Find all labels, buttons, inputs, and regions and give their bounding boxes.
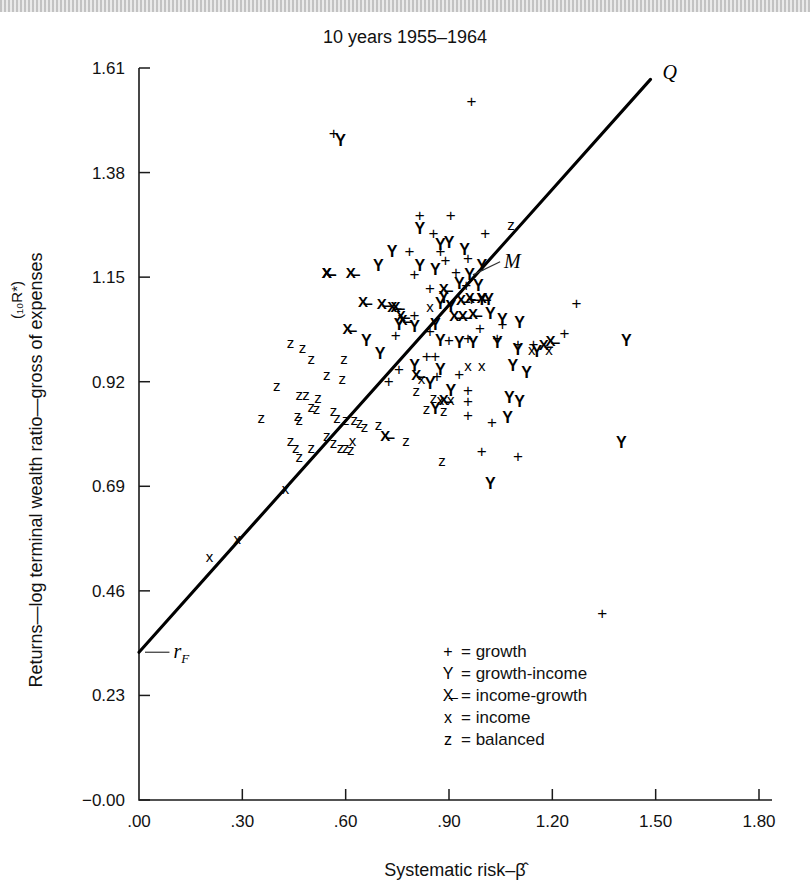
data-point-growth: +: [441, 251, 451, 270]
data-point-balanced: z: [333, 409, 341, 426]
x-tick-label: .60: [334, 812, 358, 831]
data-point-balanced: z: [440, 402, 448, 419]
data-point-balanced: z: [338, 370, 346, 387]
x-tick-label: 1.20: [536, 812, 569, 831]
legend: += growthY= growth-incomeX̶= income-grow…: [443, 642, 587, 749]
data-point-growth-income: Y: [409, 318, 420, 335]
data-point-growth: +: [394, 360, 404, 379]
legend-label-balanced: = balanced: [461, 730, 545, 749]
data-point-growth-income: Y: [387, 243, 398, 260]
data-point-growth-income: Y: [521, 364, 532, 381]
axis-lines: [139, 68, 772, 800]
data-point-growth-income: Y: [476, 257, 487, 274]
data-point-income-growth: X̶: [439, 280, 454, 297]
y-tick-label: 1.38: [92, 164, 125, 183]
data-point-growth: +: [559, 324, 569, 343]
data-point-balanced: z: [423, 400, 431, 417]
legend-label-income: = income: [461, 708, 530, 727]
y-axis-title-group: Returns—log terminal wealth ratio—gross …: [8, 252, 46, 687]
data-point-growth-income: Y: [430, 316, 441, 333]
data-point-balanced: z: [273, 377, 281, 394]
data-point-balanced: z: [375, 416, 383, 433]
data-point-income-growth: X̶: [380, 427, 395, 444]
data-point-balanced: z: [402, 432, 410, 449]
data-point-income: x: [426, 298, 434, 315]
data-point-growth-income: Y: [514, 314, 525, 331]
data-point-income-growth: X̶: [322, 264, 337, 281]
data-point-growth: +: [404, 242, 414, 261]
data-point-income-growth: X̶: [342, 320, 357, 337]
y-tick-label: 0.92: [92, 373, 125, 392]
data-point-income: x: [464, 357, 472, 374]
data-point-growth-income: Y: [616, 434, 627, 451]
plot-axes: −0.000.230.460.690.921.151.381.61 .00.30…: [82, 59, 776, 831]
q-label: Q: [663, 61, 678, 83]
data-point-balanced: z: [340, 350, 348, 367]
rf-label: rF: [173, 640, 190, 666]
data-point-balanced: z: [307, 350, 315, 367]
data-point-income: x: [282, 480, 290, 497]
data-point-growth-income: Y: [485, 475, 496, 492]
data-point-growth-income: Y: [435, 332, 446, 349]
data-point-balanced: z: [361, 418, 369, 435]
data-point-growth: +: [466, 92, 476, 111]
x-axis-ticks: [242, 789, 759, 800]
data-point-growth: +: [487, 413, 497, 432]
x-tick-label: .90: [437, 812, 461, 831]
data-point-income-growth: X̶: [358, 293, 373, 310]
data-point-balanced: z: [430, 389, 438, 406]
legend-label-income-growth: = income-growth: [461, 686, 587, 705]
y-axis-ticks: [139, 68, 150, 800]
legend-symbol-income: x: [444, 709, 452, 726]
legend-label-growth: = growth: [461, 642, 527, 661]
data-point-growth-income: Y: [502, 409, 513, 426]
data-point-growth: +: [425, 279, 435, 298]
scatter-plot-figure: 10 years 1955–1964 −0.000.230.460.690.92…: [0, 0, 810, 894]
x-axis-title: Systematic risk–β̂: [384, 860, 528, 880]
data-point-balanced: z: [299, 339, 307, 356]
y-tick-label: 0.46: [92, 582, 125, 601]
x-tick-label: .30: [231, 812, 255, 831]
y-axis-tick-labels: −0.000.230.460.690.921.151.381.61: [82, 59, 125, 810]
y-tick-label: 0.69: [92, 477, 125, 496]
data-point-income: x: [478, 357, 486, 374]
data-point-income-growth: X̶: [346, 264, 361, 281]
data-point-growth-income: Y: [373, 257, 384, 274]
data-point-growth: +: [513, 447, 523, 466]
data-point-growth: +: [480, 224, 490, 243]
data-point-growth: +: [463, 406, 473, 425]
data-point-income: x: [206, 548, 214, 565]
data-point-growth-income: Y: [514, 393, 525, 410]
data-point-growth-income: Y: [485, 305, 496, 322]
data-point-growth-income: Y: [621, 332, 632, 349]
data-point-growth-income: Y: [507, 357, 518, 374]
y-axis-title-superscript: (₁₀R*): [8, 281, 25, 319]
data-point-growth-income: Y: [375, 345, 386, 362]
y-axis-title: Returns—log terminal wealth ratio—gross …: [26, 252, 46, 687]
data-point-growth: +: [597, 604, 607, 623]
data-point-growth: +: [384, 372, 394, 391]
y-tick-label: 1.61: [92, 59, 125, 78]
data-point-growth-income: Y: [414, 257, 425, 274]
data-point-income: x: [528, 341, 536, 358]
data-point-balanced: z: [287, 334, 295, 351]
data-point-income: x: [233, 530, 241, 547]
x-tick-label: 1.50: [639, 812, 672, 831]
data-point-growth-income: Y: [513, 341, 524, 358]
x-axis-tick-labels: .00.30.60.901.201.501.80: [127, 812, 775, 831]
chart-title: 10 years 1955–1964: [323, 27, 487, 47]
data-point-growth: +: [571, 294, 581, 313]
data-point-balanced: z: [258, 409, 266, 426]
data-point-growth-income: Y: [361, 332, 372, 349]
data-point-growth-income: Y: [430, 261, 441, 278]
data-point-balanced: z: [347, 441, 355, 458]
legend-symbol-growth: +: [443, 643, 452, 660]
data-point-growth: +: [446, 206, 456, 225]
data-point-growth-income: Y: [435, 361, 446, 378]
data-point-balanced: z: [295, 411, 303, 428]
data-point-growth-income: Y: [435, 236, 446, 253]
data-point-balanced: z: [307, 439, 315, 456]
data-point-growth-income: Y: [497, 311, 508, 328]
y-tick-label: −0.00: [82, 791, 125, 810]
y-tick-label: 1.15: [92, 268, 125, 287]
